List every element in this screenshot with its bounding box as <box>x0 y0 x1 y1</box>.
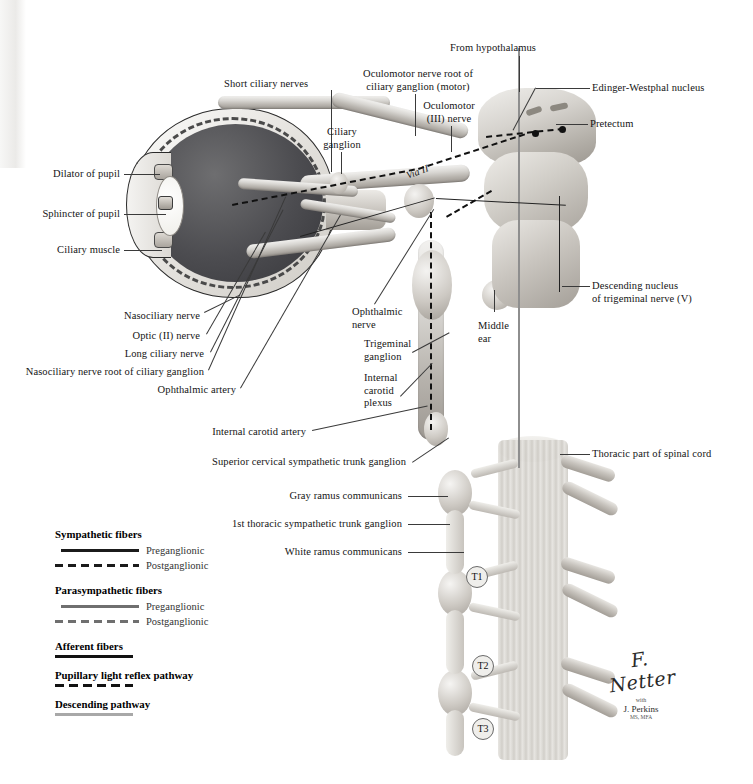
signature-perkins: J. Perkins <box>596 704 686 714</box>
label-internal-carotid-artery: Internal carotid artery <box>180 426 306 439</box>
legend-label: Preganglionic <box>139 601 204 612</box>
label-gray-ramus: Gray ramus communicans <box>230 490 402 503</box>
legend: Sympathetic fibersPreganglionicPostgangl… <box>55 528 275 716</box>
label-trigeminal-ganglion: Trigeminal ganglion <box>364 338 411 363</box>
legend-heading: Afferent fibers <box>55 640 275 652</box>
descending-pathway-trace <box>518 48 520 468</box>
signature-netter: F. Netter <box>593 642 688 698</box>
leader-oculomotor-nerve <box>451 126 452 152</box>
trunk-segment-3 <box>446 710 464 756</box>
legend-row: Preganglionic <box>55 599 275 613</box>
leader-pretectum <box>556 124 588 125</box>
legend-spacer <box>55 629 275 640</box>
leader-dilator-of-pupil <box>124 174 160 175</box>
page-edge-shading <box>0 0 26 168</box>
legend-label: Preganglionic <box>139 545 204 556</box>
leader-sphincter-of-pupil <box>124 214 166 215</box>
legend-swatch-dashed-icon <box>55 614 139 628</box>
superior-cervical-ganglion <box>412 250 452 320</box>
label-sphincter-of-pupil: Sphincter of pupil <box>2 208 120 221</box>
spinal-nerve-t1b <box>560 480 620 518</box>
label-nasociliary-root: Nasociliary nerve root of ciliary gangli… <box>18 366 204 379</box>
legend-heading: Descending pathway <box>55 698 275 710</box>
label-middle-ear: Middle ear <box>478 320 509 345</box>
leader-white-ramus <box>408 552 464 553</box>
legend-heading: Pupillary light reflex pathway <box>55 669 275 681</box>
label-dilator-of-pupil: Dilator of pupil <box>8 168 120 181</box>
label-nasociliary-nerve: Nasociliary nerve <box>70 310 200 323</box>
legend-spacer <box>55 687 275 698</box>
figure-canvas: T1 T2 T3 From hypothalamus Edinger-Westp… <box>0 0 753 784</box>
leader-thoracic-spinal-cord <box>560 454 590 455</box>
legend-label: Postganglionic <box>139 616 208 627</box>
sympathetic-trunk <box>438 452 472 752</box>
legend-swatch-dashed-icon <box>55 558 139 572</box>
legend-row: Postganglionic <box>55 558 275 572</box>
legend-label: Postganglionic <box>139 560 208 571</box>
level-marker-t2: T2 <box>472 655 494 677</box>
signature-degrees: MS, MFA <box>596 714 686 720</box>
label-optic-nerve: Optic (II) nerve <box>82 330 200 343</box>
trunk-segment-2 <box>446 610 464 674</box>
spinal-nerve-t2b <box>560 582 620 620</box>
leader-from-hypothalamus <box>519 56 520 92</box>
legend-heading: Sympathetic fibers <box>55 528 275 540</box>
leader-first-thoracic-ganglion <box>408 524 450 525</box>
signature-with: with <box>596 697 686 703</box>
label-oculomotor-root: Oculomotor nerve root of ciliary ganglio… <box>330 68 506 93</box>
label-descending-nucleus: Descending nucleus of trigeminal nerve (… <box>592 280 692 305</box>
label-oculomotor-nerve: Oculomotor (III) nerve <box>406 100 492 125</box>
level-marker-t1: T1 <box>466 566 488 588</box>
leader-middle-ear <box>494 290 495 312</box>
level-marker-t3: T3 <box>472 718 494 740</box>
sphincter-pupillae <box>158 196 173 210</box>
legend-spacer <box>55 573 275 584</box>
label-internal-carotid-plexus: Internal carotid plexus <box>364 372 397 410</box>
label-thoracic-spinal-cord: Thoracic part of spinal cord <box>592 448 711 461</box>
descending-trigeminal-trace <box>559 196 560 292</box>
label-ciliary-muscle: Ciliary muscle <box>10 244 120 257</box>
label-short-ciliary-nerves: Short ciliary nerves <box>224 78 308 91</box>
carotid-plexus-dash <box>430 212 432 430</box>
label-ciliary-ganglion: Ciliary ganglion <box>308 126 376 151</box>
label-pretectum: Pretectum <box>590 118 633 131</box>
legend-row: Postganglionic <box>55 614 275 628</box>
legend-swatch-solid-icon <box>55 713 133 716</box>
trunk-segment-1 <box>446 510 464 574</box>
leader-gray-ramus <box>408 496 448 497</box>
label-from-hypothalamus: From hypothalamus <box>408 42 578 55</box>
label-long-ciliary-nerve: Long ciliary nerve <box>78 348 204 361</box>
label-ophthalmic-artery: Ophthalmic artery <box>86 384 236 397</box>
legend-swatch-solid-icon <box>55 599 139 613</box>
leader-edinger-westphal <box>536 88 590 89</box>
legend-heading: Parasympathetic fibers <box>55 584 275 596</box>
leader-ciliary-muscle <box>124 250 162 251</box>
label-superior-cervical-ganglion: Superior cervical sympathetic trunk gang… <box>150 456 406 469</box>
legend-spacer <box>55 658 275 669</box>
medulla <box>492 220 580 308</box>
legend-swatch-solid-icon <box>55 543 139 557</box>
leader-descending-nucleus <box>562 286 590 287</box>
label-ophthalmic-nerve: Ophthalmic nerve <box>352 306 403 331</box>
label-edinger-westphal-nucleus: Edinger-Westphal nucleus <box>592 82 704 95</box>
leader-ciliary-ganglion <box>341 152 342 174</box>
artist-signature: F. Netter with J. Perkins MS, MFA <box>596 648 686 720</box>
legend-row: Preganglionic <box>55 543 275 557</box>
